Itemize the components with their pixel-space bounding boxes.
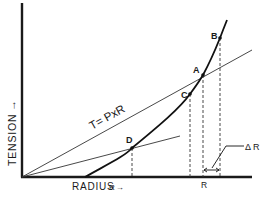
point-c-label: C xyxy=(181,90,188,100)
line-equation-label: T= PxR xyxy=(87,103,127,132)
point-a-marker xyxy=(201,73,205,77)
tension-line-lower xyxy=(22,136,180,177)
delta-r-leader xyxy=(212,146,244,168)
point-d-label: D xyxy=(126,135,133,145)
point-b-label: B xyxy=(211,31,218,41)
point-d-marker xyxy=(130,146,134,150)
tension-line-upper xyxy=(22,50,252,177)
x-axis-r-marker: R→ xyxy=(109,183,124,192)
delta-r-label: Δ R xyxy=(245,142,260,152)
point-a-label: A xyxy=(193,65,200,75)
point-b-marker xyxy=(218,36,222,40)
y-axis-label: TENSION→ xyxy=(6,99,18,166)
tension-radius-diagram: A B C D T= PxR TENSION→ RADIUS R→ R Δ R xyxy=(0,0,267,198)
point-c-marker xyxy=(188,92,192,96)
r-tick-label: R xyxy=(201,180,207,190)
tension-curve xyxy=(85,20,227,177)
